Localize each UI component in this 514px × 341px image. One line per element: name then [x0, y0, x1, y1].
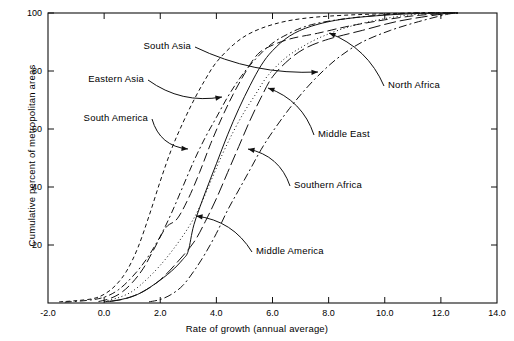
axis-ticks: [48, 13, 497, 303]
x-tick-label: 8.0: [322, 308, 335, 318]
plot-border: [48, 13, 497, 303]
callout-leader-line: [329, 33, 384, 86]
series-line-south-america: [65, 13, 458, 302]
series-line-south-asia: [99, 13, 458, 302]
x-tick-label: 2.0: [154, 308, 167, 318]
x-tick-label: 10.0: [376, 308, 394, 318]
x-tick-label: 12.0: [432, 308, 450, 318]
callout-leader-line: [148, 80, 222, 99]
series-line-north-africa: [110, 13, 458, 302]
callout-arrowhead: [329, 33, 336, 38]
plot-frame: [48, 13, 497, 303]
callout-leader-line: [152, 119, 188, 149]
y-axis-title: Cumulative percent of metropolitan areas: [26, 41, 37, 271]
x-tick-label: 14.0: [488, 308, 506, 318]
series-line-middle-america: [104, 13, 458, 302]
cumulative-growth-rate-chart: -2.00.02.04.06.08.010.012.014.0204060801…: [0, 0, 514, 341]
callout-arrowhead: [268, 88, 275, 93]
series-label-south-asia: South Asia: [144, 40, 191, 51]
callout-leader-line: [196, 216, 252, 252]
callout-leader-line: [248, 149, 290, 186]
callout-arrowhead: [215, 96, 222, 101]
x-tick-label: -2.0: [40, 308, 56, 318]
callout-arrowhead: [248, 148, 255, 153]
x-tick-label: 0.0: [98, 308, 111, 318]
x-axis-title: Rate of growth (annual average): [186, 323, 328, 334]
x-tick-label: 4.0: [210, 308, 223, 318]
y-tick-label: 100: [27, 8, 42, 18]
series-label-middle-america: Middle America: [256, 245, 324, 256]
series-label-southern-africa: Southern Africa: [294, 179, 362, 190]
data-series-group: [59, 13, 457, 302]
series-label-south-america: South America: [84, 112, 148, 123]
x-tick-label: 6.0: [266, 308, 279, 318]
chart-canvas: [0, 0, 514, 341]
series-label-eastern-asia: Eastern Asia: [88, 73, 144, 84]
series-label-middle-east: Middle East: [318, 128, 370, 139]
callout-arrowhead: [311, 70, 318, 75]
series-line-middle-east: [104, 13, 458, 301]
series-label-north-africa: North Africa: [388, 79, 440, 90]
callout-leader-line: [268, 88, 314, 135]
callout-leader-line: [195, 47, 318, 72]
